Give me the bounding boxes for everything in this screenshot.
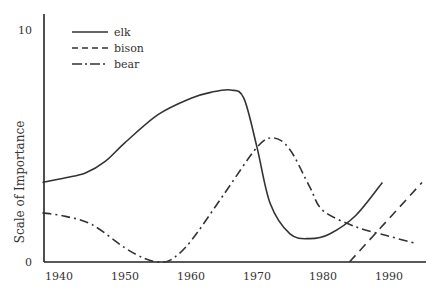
x-tick-label: 1940 bbox=[45, 270, 73, 283]
bear-line bbox=[43, 138, 416, 262]
bison-line bbox=[349, 182, 422, 262]
y-tick-label-0: 0 bbox=[25, 256, 32, 269]
y-tick-label-10: 10 bbox=[18, 24, 32, 37]
x-tick-label: 1950 bbox=[111, 270, 139, 283]
x-tick-label: 1970 bbox=[243, 270, 271, 283]
y-axis-label: Scale of Importance bbox=[13, 121, 27, 244]
x-tick-label: 1960 bbox=[177, 270, 205, 283]
line-chart: 10 0 Scale of Importance 1940 1950 1960 … bbox=[0, 0, 442, 298]
legend-label-bison: bison bbox=[114, 42, 144, 55]
legend-label-elk: elk bbox=[114, 26, 131, 39]
x-tick-label: 1990 bbox=[375, 270, 403, 283]
x-tick-labels: 1940 1950 1960 1970 1980 1990 bbox=[45, 270, 403, 283]
x-tick-label: 1980 bbox=[309, 270, 337, 283]
legend: elk bison bear bbox=[72, 26, 144, 71]
legend-label-bear: bear bbox=[114, 58, 140, 71]
